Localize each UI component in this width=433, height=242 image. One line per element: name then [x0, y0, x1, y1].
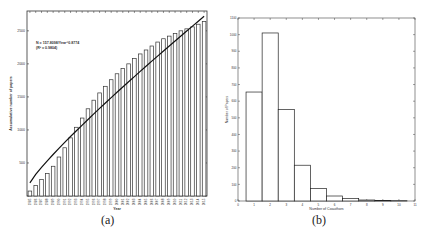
- x-tick-label: 3: [285, 203, 287, 207]
- x-tick-label: 2009: [167, 198, 171, 205]
- y-tick-label: 2000: [17, 62, 25, 66]
- bar: [28, 191, 32, 196]
- x-tick-label: 8: [366, 203, 368, 207]
- y-tick-label: 1100: [230, 16, 237, 20]
- x-tick-label: 0: [237, 203, 239, 207]
- histogram-bar: [327, 196, 343, 201]
- bar: [63, 148, 67, 196]
- bar: [185, 29, 189, 196]
- y-tick-label: 1000: [230, 33, 237, 37]
- x-tick-label: 1997: [97, 198, 101, 205]
- x-tick-label: 1999: [109, 198, 113, 205]
- y-tick-label: 500: [19, 161, 25, 165]
- x-tick-label: 10: [397, 203, 401, 207]
- x-tick-label: 1987: [39, 198, 43, 205]
- x-tick-label: 2007: [155, 198, 159, 205]
- x-tick-label: 2015: [202, 198, 206, 205]
- y-axis-label: Number of Papers: [225, 95, 229, 123]
- caption-b: (b): [312, 213, 326, 228]
- bar: [173, 33, 177, 196]
- x-axis-label: Year: [113, 207, 121, 211]
- bar: [144, 50, 148, 196]
- x-tick-label: 2010: [173, 198, 177, 205]
- y-tick-label: 600: [231, 99, 236, 103]
- bar: [133, 59, 137, 196]
- histogram-bar: [294, 165, 310, 201]
- x-tick-label: 2008: [161, 198, 165, 205]
- x-tick-label: 2: [269, 203, 271, 207]
- x-tick-label: 1989: [51, 198, 55, 205]
- histogram-bar: [343, 199, 359, 201]
- y-tick-label: 500: [231, 116, 236, 120]
- bar: [51, 166, 55, 196]
- bar: [138, 54, 142, 196]
- x-tick-label: 2002: [126, 198, 130, 205]
- x-tick-label: 2013: [190, 198, 194, 205]
- x-tick-label: 9: [382, 203, 384, 207]
- histogram-bar: [246, 92, 262, 201]
- x-tick-label: 2001: [121, 198, 125, 205]
- y-tick-label: 900: [231, 49, 236, 53]
- fit-equation: N = 157.8098/Year^0.8774: [36, 41, 79, 45]
- x-tick-label: 1988: [45, 198, 49, 205]
- x-tick-label: 1986: [34, 198, 38, 205]
- histogram-bar: [359, 200, 375, 201]
- y-tick-label: 1500: [17, 95, 25, 99]
- bar: [150, 46, 154, 196]
- histogram-bar: [262, 33, 278, 201]
- y-tick-label: 300: [231, 149, 236, 153]
- bar: [202, 22, 206, 196]
- chart-a-accumulative-papers: 5001000150020002500198519861987198819891…: [0, 0, 220, 215]
- x-tick-label: 2000: [115, 198, 119, 205]
- x-tick-label: 2012: [184, 198, 188, 205]
- x-tick-label: 2006: [150, 198, 154, 205]
- x-tick-label: 2011: [179, 198, 183, 205]
- y-axis-label: Accumulative number of papers: [9, 76, 13, 131]
- bar: [69, 138, 73, 196]
- histogram-bar: [310, 189, 326, 201]
- y-tick-label: 1000: [17, 128, 25, 132]
- chart-a-svg: 5001000150020002500198519861987198819891…: [0, 0, 220, 215]
- x-tick-label: 1990: [57, 198, 61, 205]
- x-tick-label: 1995: [86, 198, 90, 205]
- chart-b-svg: 0100200300400500600700800900100011000123…: [222, 0, 433, 215]
- y-tick-label: 800: [231, 66, 236, 70]
- x-tick-label: 1992: [68, 198, 72, 205]
- histogram-bar: [278, 110, 294, 202]
- y-tick-label: 700: [231, 83, 236, 87]
- y-tick-label: 400: [231, 133, 236, 137]
- bar: [86, 109, 90, 196]
- x-tick-label: 2014: [196, 198, 200, 205]
- x-tick-label: 7: [350, 203, 352, 207]
- bar: [57, 157, 61, 196]
- bar: [191, 27, 195, 196]
- x-tick-label: 1: [253, 203, 255, 207]
- x-tick-label: 1996: [92, 198, 96, 205]
- x-tick-label: 2005: [144, 198, 148, 205]
- caption-a: (a): [101, 213, 114, 228]
- bar: [179, 31, 183, 196]
- y-tick-label: 100: [231, 183, 236, 187]
- x-tick-label: 1998: [103, 198, 107, 205]
- y-tick-label: 2500: [17, 29, 25, 33]
- bar: [156, 42, 160, 196]
- y-tick-label: 200: [231, 166, 236, 170]
- x-tick-label: 11: [413, 203, 416, 207]
- bar: [196, 24, 200, 196]
- bar: [162, 39, 166, 196]
- x-tick-label: 1985: [28, 198, 32, 205]
- chart-b-coauthor-histogram: 0100200300400500600700800900100011000123…: [222, 0, 433, 215]
- bar: [80, 118, 84, 196]
- x-tick-label: 1991: [63, 198, 67, 205]
- bar: [75, 127, 79, 196]
- fit-r-squared: (R² = 0.9804): [36, 46, 58, 50]
- x-axis-label: Number of Coauthors: [309, 207, 344, 211]
- x-tick-label: 2004: [138, 198, 142, 205]
- x-tick-label: 4: [302, 203, 304, 207]
- x-tick-label: 1994: [80, 198, 84, 205]
- bar: [167, 36, 171, 196]
- bar: [34, 185, 38, 196]
- bar: [40, 179, 44, 196]
- bar: [46, 174, 50, 196]
- x-tick-label: 1993: [74, 198, 78, 205]
